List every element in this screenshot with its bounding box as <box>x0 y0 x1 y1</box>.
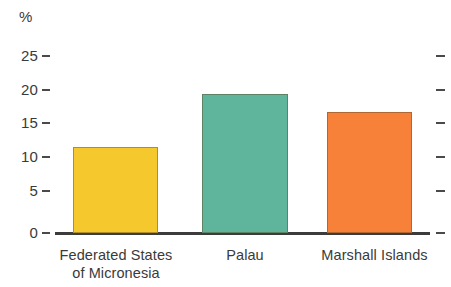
y-tick-label-15: 15 <box>4 114 38 131</box>
x-label-federated-states-of-micronesia: Federated States of Micronesia <box>45 246 187 282</box>
x-label-line-1: Federated States <box>45 246 187 264</box>
plot-area: 25 20 15 10 5 0 Federated States of Micr… <box>0 0 451 287</box>
y-tick-label-25: 25 <box>4 47 38 64</box>
x-label-line-1: Palau <box>195 246 295 264</box>
y-tick-mark-20 <box>42 89 50 91</box>
y-tick-mark-right-0 <box>436 232 445 234</box>
y-tick-mark-right-10 <box>436 156 445 158</box>
y-tick-label-20: 20 <box>4 81 38 98</box>
y-tick-mark-right-5 <box>436 190 445 192</box>
bar-palau <box>202 94 288 233</box>
y-tick-mark-10 <box>42 156 50 158</box>
y-tick-mark-0 <box>42 232 50 234</box>
y-tick-mark-right-25 <box>436 55 445 57</box>
y-tick-mark-right-20 <box>436 89 445 91</box>
bar-federated-states-of-micronesia <box>73 147 158 233</box>
bar-marshall-islands <box>327 112 412 233</box>
y-tick-mark-5 <box>42 190 50 192</box>
y-tick-label-0: 0 <box>4 224 38 241</box>
y-tick-label-5: 5 <box>4 182 38 199</box>
x-label-marshall-islands: Marshall Islands <box>312 246 437 264</box>
y-tick-mark-15 <box>42 122 50 124</box>
y-tick-mark-25 <box>42 55 50 57</box>
bar-chart: % 25 20 15 10 5 0 Federated States of M <box>0 0 451 287</box>
x-label-line-1: Marshall Islands <box>312 246 437 264</box>
y-tick-label-10: 10 <box>4 148 38 165</box>
x-label-palau: Palau <box>195 246 295 264</box>
y-tick-mark-right-15 <box>436 122 445 124</box>
x-label-line-2: of Micronesia <box>45 264 187 282</box>
